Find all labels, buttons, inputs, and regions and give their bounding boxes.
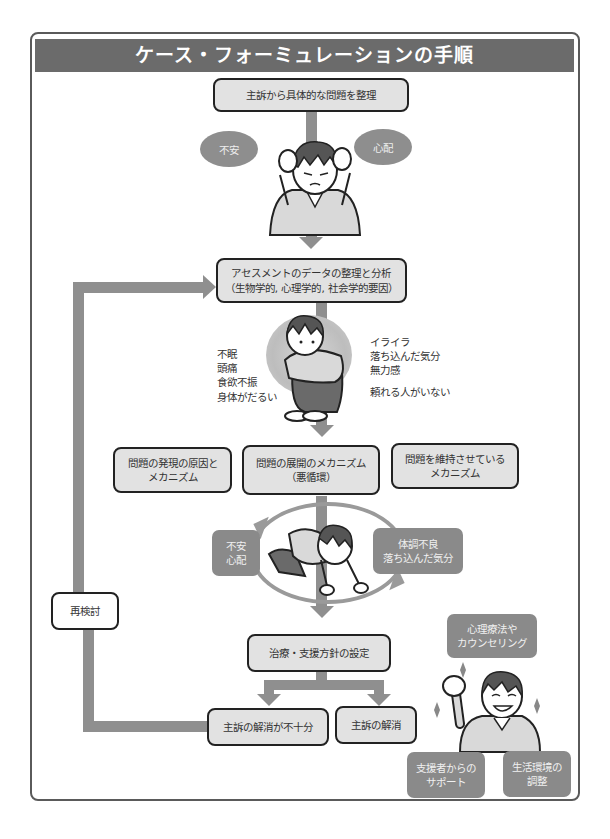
- loop-arrowhead: [203, 275, 216, 299]
- crouching-person-illustration: [275, 312, 355, 422]
- step-organize-problem: 主訴から具体的な問題を整理: [213, 78, 409, 112]
- loop-lower-vertical: [83, 628, 94, 732]
- flow-arrowhead-3: [310, 606, 334, 618]
- loop-upper-vertical: [73, 282, 84, 598]
- flow-arrowhead-1: [299, 237, 323, 249]
- loop-bottom: [83, 721, 219, 732]
- box-mechanism-development: 問題の展開のメカニズム （悪循環）: [242, 445, 380, 495]
- split-right-leg: [374, 680, 384, 694]
- cycle-box-poor-health: 体調不良 落ち込んだ気分: [373, 528, 463, 574]
- physical-symptoms: 不眠 頭痛 食欲不振 身体がだるい: [217, 347, 277, 404]
- cycle-box-anxiety-worry: 不安 心配: [212, 530, 260, 576]
- box-reexamine: 再検討: [51, 592, 119, 630]
- box-mechanism-onset: 問題の発現の原因と メカニズム: [113, 447, 232, 493]
- cloud-anxiety: 不安: [200, 131, 258, 167]
- box-resolution: 主訴の解消: [335, 706, 417, 744]
- social-symptoms: 頼れる人がいない: [370, 385, 450, 399]
- flow-arrowhead-2: [310, 425, 334, 437]
- worried-person-illustration: [260, 135, 370, 235]
- support-supporter: 支援者からの サポート: [407, 752, 485, 798]
- box-mechanism-maintenance: 問題を維持させている メカニズム: [391, 443, 519, 489]
- split-right-arrowhead: [367, 694, 391, 706]
- support-environment: 生活環境の 調整: [503, 751, 571, 797]
- psychological-symptoms: イライラ 落ち込んだ気分 無力感: [370, 335, 440, 378]
- support-therapy: 心理療法や カウンセリング: [447, 614, 537, 658]
- split-left-arrowhead: [257, 694, 281, 706]
- box-insufficient-resolution: 主訴の解消が不十分: [207, 708, 329, 746]
- step-assessment: アセスメントのデータの整理と分析 （生物学的, 心理学的, 社会学的要因）: [216, 258, 407, 303]
- split-horizontal: [264, 680, 384, 690]
- happy-person-illustration: [430, 662, 550, 752]
- collapsed-person-illustration: [265, 512, 375, 600]
- split-left-leg: [264, 680, 274, 694]
- step-treatment-plan: 治療・支援方針の設定: [247, 634, 391, 672]
- diagram-title: ケース・フォーミュレーションの手順: [35, 39, 574, 72]
- loop-top: [73, 282, 203, 293]
